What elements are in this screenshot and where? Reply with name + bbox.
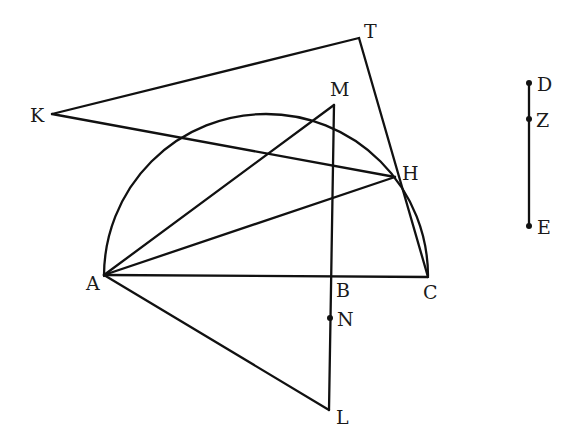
point-N-dot — [327, 315, 333, 321]
segment-TC — [359, 38, 428, 277]
segment-AH — [104, 177, 395, 275]
label-E: E — [537, 216, 551, 238]
label-B: B — [336, 279, 350, 301]
label-N: N — [337, 308, 354, 330]
segment-AC — [104, 275, 428, 277]
segment-KT — [52, 38, 359, 114]
point-E-dot — [526, 223, 532, 229]
label-A: A — [85, 272, 100, 294]
geometric-diagram: K T M H A B C N L D Z E — [0, 0, 582, 447]
point-D-dot — [526, 80, 532, 86]
segment-ML — [329, 105, 334, 410]
segment-KH — [52, 114, 395, 177]
point-Z-dot — [526, 116, 532, 122]
label-H: H — [402, 162, 419, 184]
label-D: D — [537, 73, 552, 95]
semicircle-arc — [104, 114, 428, 276]
label-L: L — [336, 406, 349, 428]
label-Z: Z — [536, 109, 549, 131]
segment-AL — [104, 275, 329, 410]
label-M: M — [330, 78, 349, 100]
label-K: K — [30, 104, 45, 126]
label-C: C — [423, 281, 438, 303]
label-T: T — [364, 20, 377, 42]
